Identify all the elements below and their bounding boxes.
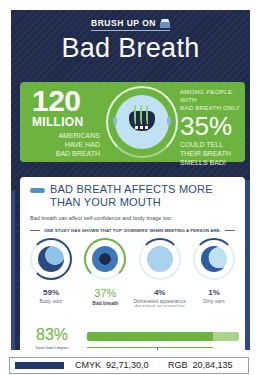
stat-caption: AMERICANS HAVE HAD BAD BREATH: [32, 131, 100, 158]
section-title: BAD BREATH AFFECTS MORE THAN YOUR MOUTH: [50, 183, 240, 209]
stat-120-million: 120 MILLION AMERICANS HAVE HAD BAD BREAT…: [32, 86, 100, 158]
downer-dirty-ears: 1% Dirty ears: [187, 238, 241, 308]
rgb-label: RGB: [168, 360, 188, 370]
impact-bar-tick: [157, 347, 158, 350]
page-title: Bad Breath: [11, 33, 250, 64]
toothbrush-icon: [160, 19, 170, 28]
toothpaste-swoosh-icon: [29, 188, 45, 193]
color-swatch: [15, 362, 64, 369]
downers-list: 59% Body odor 37% Bad breath 4% Dishevel…: [24, 238, 241, 308]
caption-line: COULD TELL: [180, 140, 244, 149]
rgb-numbers: 20,84,135: [193, 360, 233, 370]
infographic-poster: BRUSH UP ON Bad Breath 120 MILLION AMERI…: [11, 10, 250, 350]
downer-label: Dirty ears: [203, 298, 224, 304]
stat-caption: COULD TELL THEIR BREATH SMELLS BAD!: [180, 140, 244, 167]
downer-percent: 37%: [94, 288, 116, 299]
lead-line: AMONG PEOPLE WITH: [180, 88, 244, 104]
body-odor-icon: [30, 238, 72, 280]
cmyk-value: CMYK92,71,30,0: [75, 360, 149, 370]
study-heading-text: ONE STUDY HAS SHOWN THAT TOP 'DOWNERS' W…: [44, 228, 221, 233]
caption-line: THEIR BREATH: [180, 149, 244, 158]
downer-label: Body odor: [40, 298, 63, 304]
downer-percent: 1%: [208, 288, 220, 297]
dirty-ears-icon: [193, 238, 235, 280]
divider: [225, 230, 235, 231]
stat-35-percent: AMONG PEOPLE WITH BAD BREATH ONLY 35% CO…: [180, 88, 244, 167]
downer-sublabel: due to facial, ear or nasal hair: [135, 304, 185, 308]
cmyk-numbers: 92,71,30,0: [106, 360, 149, 370]
study-heading: ONE STUDY HAS SHOWN THAT TOP 'DOWNERS' W…: [30, 228, 235, 233]
bad-breath-face-icon: [106, 86, 180, 158]
caption-line: AMERICANS: [32, 131, 100, 140]
impact-percent: 83%: [36, 327, 68, 343]
stat-percent: 35%: [180, 112, 244, 140]
impact-bar-underline: [87, 347, 213, 348]
impact-bar-fill: [87, 332, 213, 341]
caption-line: BAD BREATH: [32, 149, 100, 158]
disheveled-icon: [139, 238, 181, 280]
downer-label: Bad breath: [92, 300, 118, 306]
cmyk-label: CMYK: [75, 360, 101, 370]
bad-breath-icon: [84, 238, 126, 280]
affects-section: BAD BREATH AFFECTS MORE THAN YOUR MOUTH …: [20, 177, 245, 350]
downer-bad-breath: 37% Bad breath: [78, 238, 132, 308]
impact-caption: have had it impact their social lives: [36, 345, 72, 350]
color-swatch-legend: CMYK92,71,30,0 RGB20,84,135: [9, 357, 249, 374]
stat-number: 120: [32, 86, 100, 116]
caption-line: SMELLS BAD!: [180, 158, 244, 167]
rgb-value: RGB20,84,135: [168, 360, 233, 370]
kicker: BRUSH UP ON: [11, 18, 250, 31]
downer-disheveled: 4% Disheveled appearance due to facial, …: [133, 238, 187, 308]
kicker-text: BRUSH UP ON: [91, 18, 156, 28]
caption-line: HAVE HAD: [32, 140, 100, 149]
downer-body-odor: 59% Body odor: [24, 238, 78, 308]
section-intro: Bad breath can affect self-confidence an…: [30, 215, 172, 221]
impact-bar: [87, 332, 239, 341]
hero-stats-panel: 120 MILLION AMERICANS HAVE HAD BAD BREAT…: [20, 82, 245, 162]
stat-unit: MILLION: [32, 116, 100, 129]
side-strip-left: [11, 190, 15, 350]
side-strip-right: [245, 180, 250, 350]
downer-percent: 59%: [43, 288, 59, 297]
downer-percent: 4%: [154, 288, 166, 297]
stat-lead: AMONG PEOPLE WITH BAD BREATH ONLY: [180, 88, 244, 112]
divider: [30, 230, 40, 231]
